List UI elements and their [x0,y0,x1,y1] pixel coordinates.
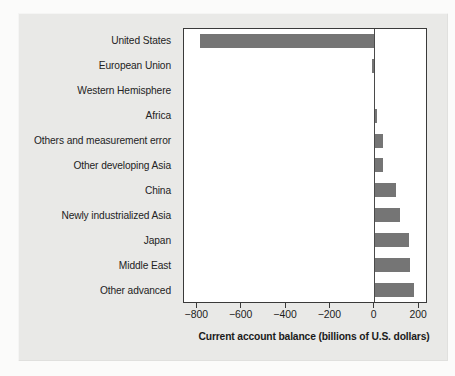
bar-row [184,128,426,153]
x-tick--600 [240,303,241,308]
category-label-africa: Africa [20,103,178,128]
category-label-other-advanced: Other advanced [20,278,178,303]
category-label-newly-industrialized-asia: Newly industrialized Asia [20,203,178,228]
bar-row [184,178,426,203]
x-tick--400 [285,303,286,308]
x-tick-200 [418,303,419,308]
category-label-other-developing-asia: Other developing Asia [20,153,178,178]
bar-japan [375,233,409,247]
category-label-united-states: United States [20,28,178,53]
bar-chart: United States European Union Western Hem… [0,0,455,376]
x-tick-label--800: −800 [185,309,208,320]
bar-middle-east [375,258,410,272]
plot-area [183,28,427,303]
bar-united-states [200,34,375,48]
bar-row [184,277,426,302]
x-tick-label-200: 200 [409,309,426,320]
x-tick-label--600: −600 [229,309,252,320]
bar-newly-industrialized-asia [375,208,401,222]
category-label-western-hemisphere: Western Hemisphere [20,78,178,103]
bar-row [184,203,426,228]
category-label-others-and-measurement-error: Others and measurement error [20,128,178,153]
x-tick--200 [329,303,330,308]
x-tick-label--400: −400 [273,309,296,320]
bar-row [184,103,426,128]
category-label-european-union: European Union [20,53,178,78]
category-label-middle-east: Middle East [20,253,178,278]
x-tick--800 [196,303,197,308]
zero-baseline [374,29,375,302]
bar-china [375,183,396,197]
bar-other-developing-asia [375,158,383,172]
x-axis-tick-labels: −800−600−400−2000200 [183,309,427,323]
x-tick-0 [373,303,374,308]
bar-row [184,228,426,253]
x-axis-title: Current account balance (billions of U.S… [183,331,445,342]
bar-row [184,29,426,54]
bar-row [184,153,426,178]
bar-others-and-measurement-error [375,134,383,148]
bar-row [184,79,426,104]
bar-row [184,252,426,277]
category-label-china: China [20,178,178,203]
bars-layer [184,29,426,302]
bar-other-advanced [375,283,414,297]
category-axis-labels: United States European Union Western Hem… [20,28,178,303]
x-tick-label--200: −200 [318,309,341,320]
bar-row [184,54,426,79]
category-label-japan: Japan [20,228,178,253]
x-tick-label-0: 0 [371,309,377,320]
